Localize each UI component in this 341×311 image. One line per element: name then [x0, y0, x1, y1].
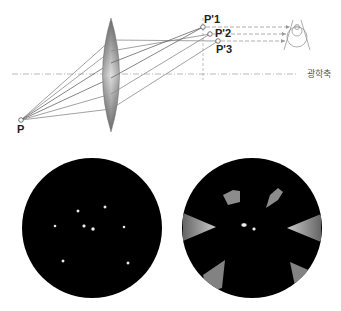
image-point-p1-label: P'1: [204, 13, 220, 25]
object-point-label: P: [17, 123, 24, 135]
image-point-p2: [208, 32, 213, 37]
incoming-rays: [21, 40, 111, 120]
object-point-p: [19, 118, 24, 123]
optical-axis-label: 광학축: [307, 68, 331, 79]
image-point-p1: [201, 25, 206, 30]
coma-star-field-panel: [182, 158, 322, 298]
image-point-p3-label: P'3: [216, 43, 232, 55]
sharp-star-field-panel: [22, 158, 162, 298]
image-point-p2-label: P'2: [215, 27, 231, 39]
lens-aberration-diagram: 광학축 P: [0, 0, 341, 311]
eye-icon: [284, 20, 310, 50]
refracted-rays: [111, 27, 218, 109]
